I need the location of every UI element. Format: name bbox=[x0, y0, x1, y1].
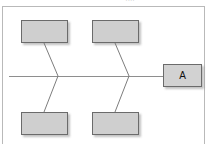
node-top-right[interactable] bbox=[92, 20, 139, 43]
diagram-spine bbox=[9, 76, 163, 77]
node-bottom-left[interactable] bbox=[21, 112, 68, 135]
node-bottom-right[interactable] bbox=[92, 112, 139, 135]
clipped-top-text: ···· bbox=[118, 0, 142, 5]
node-output-a[interactable]: A bbox=[163, 64, 202, 87]
node-top-left[interactable] bbox=[21, 20, 68, 43]
node-output-a-label: A bbox=[179, 71, 186, 81]
screenshot-canvas: ···· A bbox=[0, 0, 212, 144]
